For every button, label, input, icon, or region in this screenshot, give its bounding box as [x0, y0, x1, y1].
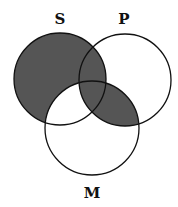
venn-diagram: S P M	[0, 0, 178, 207]
label-s: S	[55, 10, 66, 28]
label-m: M	[84, 184, 101, 202]
label-p: P	[118, 10, 129, 28]
